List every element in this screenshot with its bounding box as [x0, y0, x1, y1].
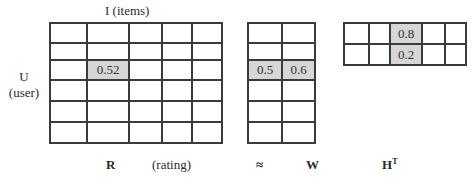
r-cell-cell	[87, 43, 129, 60]
ht-cell-cell	[422, 44, 445, 65]
r-cell-row	[50, 23, 222, 43]
ht-cell-row: 0.8	[344, 23, 466, 44]
items-axis-label: I (items)	[105, 3, 149, 19]
matrix-ht-base: H	[382, 157, 392, 172]
w-cell-row	[248, 43, 315, 60]
w-cell-row	[248, 23, 315, 43]
w-cell-row: 0.50.6	[248, 60, 315, 80]
r-cell-cell	[87, 122, 129, 143]
r-cell-cell	[87, 23, 129, 43]
w-cell-cell	[248, 80, 282, 101]
user-factor-matrix-w: 0.50.6	[247, 22, 316, 144]
ht-cell-cell	[344, 23, 369, 44]
r-cell-cell	[192, 60, 222, 80]
w-cell-row	[248, 101, 315, 122]
r-cell-cell	[192, 101, 222, 122]
r-cell-cell	[162, 43, 192, 60]
r-cell-cell	[192, 43, 222, 60]
r-cell-cell	[50, 122, 87, 143]
w-cell-cell	[248, 23, 282, 43]
r-cell-cell	[162, 122, 192, 143]
r-cell-cell	[87, 80, 129, 101]
r-cell-row	[50, 122, 222, 143]
w-cell-cell	[282, 122, 315, 143]
user-axis-label-text: (user)	[3, 85, 45, 101]
r-cell-cell	[50, 43, 87, 60]
r-cell-cell	[162, 23, 192, 43]
r-cell-cell	[87, 101, 129, 122]
user-axis-label: U (user)	[3, 69, 45, 101]
r-cell-cell	[192, 122, 222, 143]
item-factor-matrix-ht: 0.80.2	[343, 22, 467, 66]
approx-symbol: ≈	[256, 157, 263, 173]
w-cell-cell: 0.6	[282, 60, 315, 80]
r-cell-cell	[192, 23, 222, 43]
ht-cell-cell	[369, 23, 390, 44]
r-cell-cell	[162, 80, 192, 101]
ht-cell-cell	[422, 23, 445, 44]
rating-matrix-r: 0.52	[49, 22, 223, 144]
r-cell-cell	[129, 80, 162, 101]
r-cell-cell	[50, 23, 87, 43]
r-cell-row	[50, 101, 222, 122]
ht-cell-cell	[369, 44, 390, 65]
r-cell-cell	[50, 101, 87, 122]
w-cell-cell: 0.5	[248, 60, 282, 80]
r-cell-row: 0.52	[50, 60, 222, 80]
ht-cell-row: 0.2	[344, 44, 466, 65]
matrix-r-name: R	[106, 157, 115, 173]
w-cell-cell	[248, 43, 282, 60]
matrix-ht-transpose: T	[392, 157, 397, 166]
r-cell-cell	[162, 101, 192, 122]
r-cell-row	[50, 43, 222, 60]
r-cell-cell	[162, 60, 192, 80]
w-cell-cell	[282, 43, 315, 60]
r-cell-cell	[129, 43, 162, 60]
w-cell-row	[248, 80, 315, 101]
ht-cell-cell: 0.2	[390, 44, 422, 65]
w-cell-row	[248, 122, 315, 143]
matrix-w-name: W	[306, 157, 319, 173]
w-cell-cell	[282, 80, 315, 101]
r-cell-cell	[50, 80, 87, 101]
ht-cell-cell	[344, 44, 369, 65]
w-cell-cell	[282, 23, 315, 43]
r-cell-cell	[129, 101, 162, 122]
r-cell-cell	[50, 60, 87, 80]
matrix-ht-name: HT	[382, 157, 397, 173]
ht-cell-cell: 0.8	[390, 23, 422, 44]
matrix-r-caption: (rating)	[152, 157, 191, 173]
w-cell-cell	[248, 101, 282, 122]
r-cell-cell	[129, 60, 162, 80]
r-cell-row	[50, 80, 222, 101]
w-cell-cell	[282, 101, 315, 122]
ht-cell-cell	[445, 23, 466, 44]
r-cell-cell	[192, 80, 222, 101]
r-cell-cell	[129, 23, 162, 43]
r-cell-cell	[129, 122, 162, 143]
w-cell-cell	[248, 122, 282, 143]
ht-cell-cell	[445, 44, 466, 65]
r-cell-cell: 0.52	[87, 60, 129, 80]
user-axis-label-letter: U	[3, 69, 45, 85]
